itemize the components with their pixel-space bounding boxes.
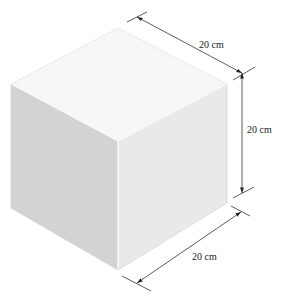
dimension-label-right: 20 cm <box>247 124 272 135</box>
dimension-label-bottom: 20 cm <box>192 251 217 262</box>
cube-diagram: 20 cm 20 cm 20 cm <box>0 0 281 305</box>
dimension-label-top: 20 cm <box>199 39 224 50</box>
dimension-right-height: 20 cm <box>233 73 272 198</box>
extension-tick-bottom-right <box>231 206 250 216</box>
extension-tick-right-bottom <box>233 187 254 198</box>
extension-tick-top-right <box>233 67 255 80</box>
cube <box>11 28 227 270</box>
extension-tick-bottom-left <box>122 276 151 291</box>
